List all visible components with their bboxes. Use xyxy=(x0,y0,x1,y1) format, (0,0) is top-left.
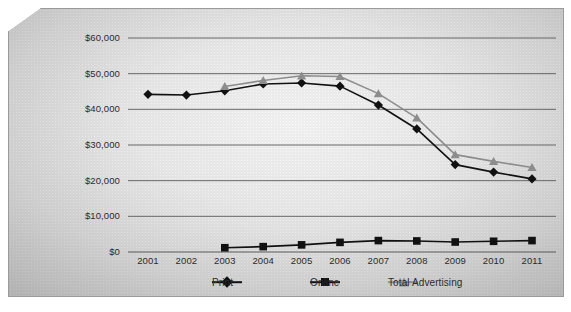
x-axis-tick-label: 2002 xyxy=(166,255,206,266)
legend-item-online[interactable]: Online xyxy=(310,276,340,288)
gridlines xyxy=(128,38,556,252)
marker-total-advertising xyxy=(412,113,421,121)
y-axis-tick-label: $40,000 xyxy=(56,103,120,114)
legend-label: Total Advertising xyxy=(388,277,463,288)
marker-print xyxy=(489,168,498,177)
marker-print xyxy=(143,90,152,99)
legend-item-print[interactable]: Print xyxy=(212,276,242,288)
x-axis-tick-label: 2004 xyxy=(243,255,283,266)
x-axis-tick-label: 2005 xyxy=(282,255,322,266)
x-axis-tick-label: 2001 xyxy=(128,255,168,266)
marker-print xyxy=(374,100,383,109)
marker-online xyxy=(451,238,459,246)
x-axis-tick-label: 2003 xyxy=(205,255,245,266)
series-markers xyxy=(143,71,536,251)
legend-item-total-advertising[interactable]: Total Advertising xyxy=(388,276,418,288)
marker-print xyxy=(335,82,344,91)
marker-online xyxy=(528,237,536,245)
y-axis-tick-label: $0 xyxy=(56,246,120,257)
scanned-chart-page: $60,000$50,000$40,000$30,000$20,000$10,0… xyxy=(0,0,571,312)
x-axis-tick-label: 2008 xyxy=(397,255,437,266)
marker-print xyxy=(182,90,191,99)
x-axis-tick-label: 2007 xyxy=(358,255,398,266)
marker-online xyxy=(298,241,306,249)
x-axis-tick-label: 2010 xyxy=(474,255,514,266)
legend-label: Online xyxy=(310,277,340,288)
marker-print xyxy=(527,174,536,183)
x-axis-tick-label: 2009 xyxy=(435,255,475,266)
marker-online xyxy=(221,244,229,252)
marker-online xyxy=(336,239,344,247)
marker-online xyxy=(490,238,498,246)
y-axis-tick-label: $50,000 xyxy=(56,68,120,79)
marker-online xyxy=(259,243,267,251)
x-axis-tick-label: 2011 xyxy=(512,255,552,266)
y-axis-tick-label: $30,000 xyxy=(56,139,120,150)
marker-online xyxy=(413,237,421,245)
marker-print xyxy=(297,78,306,87)
marker-total-advertising xyxy=(374,89,383,97)
x-axis-tick-label: 2006 xyxy=(320,255,360,266)
marker-online xyxy=(375,237,383,245)
y-axis-tick-label: $60,000 xyxy=(56,32,120,43)
series-line-print xyxy=(148,83,532,179)
y-axis-tick-label: $10,000 xyxy=(56,210,120,221)
y-axis-tick-label: $20,000 xyxy=(56,175,120,186)
series-lines xyxy=(148,76,532,248)
legend-label: Print xyxy=(212,277,233,288)
